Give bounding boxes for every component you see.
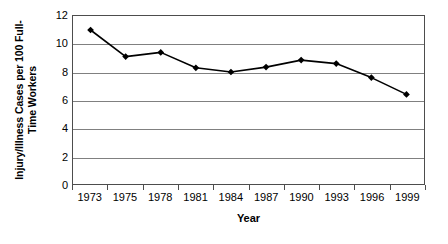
x-axis-tick [390,185,391,190]
data-point-marker [192,64,199,71]
y-axis-title: Injury/Illness Cases per 100 Full- Time … [0,0,52,200]
x-axis-tick-label: 1978 [140,191,180,204]
y-axis-tick-label: 8 [48,66,68,77]
x-axis-tick-label: 1996 [352,191,392,204]
series-line [91,30,407,94]
x-axis-tick-label: 1990 [281,191,321,204]
x-axis-tick [425,185,426,190]
x-axis-tick [178,185,179,190]
y-axis-tick-label: 12 [48,10,68,21]
x-axis-tick-label: 1987 [246,191,286,204]
y-axis-tick-label: 6 [48,95,68,106]
x-axis-tick-label: 1993 [317,191,357,204]
y-axis-tick-label: 0 [48,180,68,191]
data-point-marker [403,91,410,98]
x-axis-tick-label: 1981 [176,191,216,204]
data-point-marker [228,69,235,76]
y-axis-title-line1: Injury/Illness Cases per 100 Full- [13,20,25,179]
data-point-marker [333,60,340,67]
x-axis-tick-label: 1984 [211,191,251,204]
data-point-marker [263,64,270,71]
x-axis-tick [143,185,144,190]
x-axis-tick [72,185,73,190]
plot-area [72,15,425,185]
x-axis-tick [354,185,355,190]
x-axis-title: Year [72,212,425,224]
data-point-marker [368,74,375,81]
y-axis-tick-labels: 121086420 [46,0,68,244]
x-axis-tick [213,185,214,190]
x-axis-tick [249,185,250,190]
data-point-marker [157,49,164,56]
x-axis-tick [107,185,108,190]
x-axis: 1973197519781981198419871990199319961999 [72,185,425,215]
y-axis-title-line2: Time Workers [26,20,39,179]
chart-figure: Injury/Illness Cases per 100 Full- Time … [0,0,448,244]
y-axis-tick-label: 10 [48,38,68,49]
y-axis-tick-label: 2 [48,151,68,162]
x-axis-tick [284,185,285,190]
data-point-marker [298,57,305,64]
x-axis-tick-label: 1975 [105,191,145,204]
data-series-line [73,16,424,184]
x-axis-tick-label: 1999 [387,191,427,204]
x-axis-tick [319,185,320,190]
x-axis-tick-label: 1973 [70,191,110,204]
y-axis-tick-label: 4 [48,123,68,134]
